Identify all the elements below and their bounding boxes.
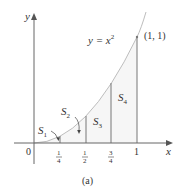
svg-text:3: 3 <box>109 149 113 157</box>
tick-three-quarter: 3 4 <box>108 149 114 165</box>
point-label: (1, 1) <box>144 30 166 42</box>
x-axis-label: x <box>165 145 171 157</box>
region-label-s2: S2 <box>61 105 71 120</box>
point-marker <box>136 36 138 38</box>
svg-text:4: 4 <box>109 157 113 165</box>
figure-caption: (a) <box>82 175 93 187</box>
svg-text:4: 4 <box>57 157 61 165</box>
y-axis-arrow-icon <box>31 13 37 20</box>
svg-text:1: 1 <box>83 149 87 157</box>
region-label-s1: S1 <box>38 124 48 139</box>
tick-half: 1 2 <box>82 149 88 165</box>
tick-quarter: 1 4 <box>56 149 62 165</box>
svg-text:1: 1 <box>57 149 61 157</box>
y-axis-label: y <box>24 10 30 22</box>
origin-label: 0 <box>26 146 31 157</box>
tick-one: 1 <box>134 146 139 157</box>
parabola-area-diagram: y x 0 y = x2 (1, 1) 1 4 1 2 3 4 1 S1 S2 … <box>0 0 185 190</box>
svg-text:2: 2 <box>83 157 87 165</box>
curve-label: y = x2 <box>87 33 115 46</box>
